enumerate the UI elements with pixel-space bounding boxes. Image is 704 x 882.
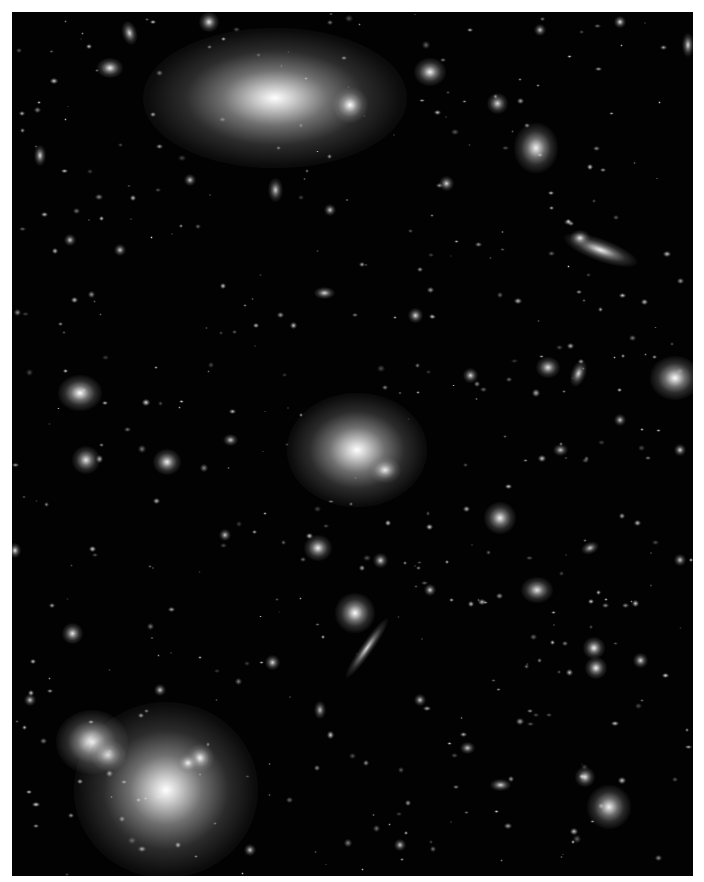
faint-source: [656, 178, 658, 179]
faint-source: [49, 603, 55, 608]
faint-source: [396, 812, 402, 816]
faint-source: [654, 327, 657, 329]
faint-source: [588, 599, 594, 604]
faint-source: [33, 824, 39, 828]
galaxy: [614, 414, 626, 426]
faint-source: [656, 429, 661, 433]
faint-source: [26, 369, 34, 376]
faint-source: [537, 320, 540, 323]
faint-source: [589, 625, 593, 629]
faint-source: [358, 23, 361, 25]
faint-source: [559, 571, 564, 576]
faint-source: [325, 864, 327, 866]
faint-source: [496, 593, 503, 598]
faint-source: [640, 699, 644, 702]
faint-source: [345, 199, 349, 201]
faint-source: [102, 355, 110, 360]
faint-source: [570, 828, 578, 835]
galaxy: [674, 444, 686, 456]
faint-source: [88, 219, 90, 221]
faint-source: [549, 206, 555, 211]
faint-source: [474, 381, 481, 387]
faint-source: [618, 777, 626, 784]
galaxy: [650, 356, 693, 399]
faint-source: [415, 363, 420, 367]
faint-source: [393, 316, 397, 320]
faint-source: [19, 111, 25, 116]
faint-source: [638, 445, 645, 451]
galaxy: [674, 554, 686, 566]
faint-source: [303, 178, 306, 180]
faint-source: [462, 100, 467, 103]
faint-source: [48, 677, 51, 680]
faint-source: [171, 233, 173, 235]
galaxy: [490, 779, 511, 791]
faint-source: [504, 823, 512, 830]
faint-source: [37, 101, 41, 104]
faint-source: [426, 370, 431, 374]
faint-source: [426, 524, 433, 530]
faint-source: [327, 20, 333, 25]
faint-source: [548, 191, 554, 195]
faint-source: [596, 590, 601, 595]
galaxy: [184, 174, 196, 186]
galaxy: [268, 178, 283, 202]
faint-source: [609, 112, 613, 115]
faint-source: [652, 540, 659, 545]
faint-source: [179, 224, 183, 228]
galaxy: [424, 584, 436, 596]
faint-source: [460, 717, 463, 719]
faint-source: [505, 484, 512, 489]
faint-source: [582, 299, 586, 302]
galaxy: [633, 653, 648, 668]
faint-source: [598, 440, 606, 445]
galaxy: [74, 702, 259, 876]
faint-source: [503, 435, 508, 438]
faint-source: [40, 738, 47, 744]
faint-source: [195, 224, 201, 229]
faint-source: [220, 283, 226, 289]
faint-source: [385, 520, 391, 526]
faint-source: [12, 463, 19, 468]
faint-source: [398, 392, 401, 394]
faint-source: [153, 498, 160, 504]
faint-source: [88, 291, 95, 297]
faint-source: [289, 696, 291, 698]
galaxy-cluster-image: [12, 12, 693, 876]
faint-source: [41, 212, 48, 217]
faint-source: [451, 753, 458, 758]
faint-source: [290, 322, 297, 329]
faint-source: [537, 658, 542, 662]
faint-source: [298, 195, 304, 201]
galaxy: [153, 449, 182, 475]
faint-source: [372, 814, 375, 817]
faint-source: [316, 250, 319, 252]
galaxy: [463, 368, 478, 383]
faint-source: [463, 463, 468, 467]
faint-source: [32, 802, 40, 807]
faint-source: [553, 624, 555, 626]
galaxy: [119, 19, 140, 46]
faint-source: [587, 164, 593, 170]
faint-source: [244, 661, 250, 666]
faint-source: [662, 673, 669, 679]
galaxy: [223, 434, 238, 446]
faint-source: [672, 777, 678, 782]
faint-source: [679, 627, 682, 629]
faint-source: [650, 584, 653, 586]
faint-source: [157, 654, 161, 657]
faint-source: [453, 785, 459, 789]
faint-source: [86, 44, 92, 49]
faint-source: [414, 14, 416, 16]
faint-source: [66, 598, 69, 600]
faint-source: [323, 524, 329, 528]
faint-source: [494, 810, 499, 814]
faint-source: [449, 598, 453, 602]
faint-source: [414, 565, 416, 567]
faint-source: [511, 130, 515, 133]
faint-source: [613, 642, 619, 646]
faint-source: [22, 725, 28, 731]
faint-source: [619, 293, 626, 298]
faint-source: [232, 330, 237, 334]
faint-source: [138, 445, 146, 453]
